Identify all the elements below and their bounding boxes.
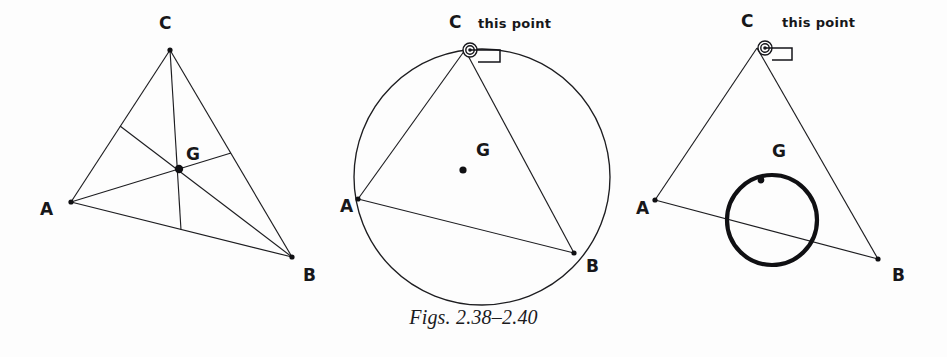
vertex-dot-A [68, 199, 73, 204]
figure-sheet: A B C G A B C G this point [0, 0, 947, 357]
centroid-locus-circle [727, 175, 817, 265]
vertex-label-A: A [636, 198, 650, 218]
figure-caption: Figs. 2.38–2.40 [0, 306, 947, 329]
median-A-to-BC [71, 153, 231, 202]
this-point-marker [463, 43, 500, 62]
median-C-to-AB [170, 50, 181, 230]
vertex-label-C: C [449, 12, 461, 32]
vertex-dot-C [167, 47, 172, 52]
side-AC [358, 50, 465, 199]
this-point-marker [758, 41, 792, 60]
vertex-label-B: B [303, 265, 316, 285]
vertex-dot-A [355, 196, 360, 201]
this-point-annotation: this point [478, 16, 551, 31]
vertex-label-C: C [159, 13, 171, 33]
median-B-to-CA [120, 126, 292, 257]
side-AC [655, 48, 757, 200]
centroid-dot-G [758, 177, 765, 184]
vertex-dot-B [571, 250, 576, 255]
side-AB [655, 200, 878, 259]
vertex-label-A: A [40, 199, 54, 219]
figures-canvas: A B C G A B C G this point [0, 0, 947, 357]
vertex-dot-A [652, 197, 657, 202]
vertex-label-B: B [892, 265, 905, 285]
vertex-label-C: C [741, 11, 753, 31]
side-AB [358, 199, 574, 253]
circumcircle [354, 49, 610, 305]
vertex-dot-B [289, 254, 294, 259]
vertex-label-B: B [586, 256, 599, 276]
figure-2-39: A B C G this point [340, 12, 610, 305]
vertex-dot-B [875, 256, 880, 261]
figure-2-38: A B C G [40, 13, 316, 285]
centroid-dot-G [459, 166, 466, 173]
figure-2-40: C A B G this point [636, 11, 905, 285]
centroid-label-G: G [476, 140, 490, 160]
centroid-dot-G [175, 165, 183, 173]
this-point-annotation: this point [782, 15, 855, 30]
centroid-label-G: G [186, 144, 200, 164]
vertex-label-A: A [340, 196, 354, 216]
centroid-label-G: G [772, 141, 786, 161]
